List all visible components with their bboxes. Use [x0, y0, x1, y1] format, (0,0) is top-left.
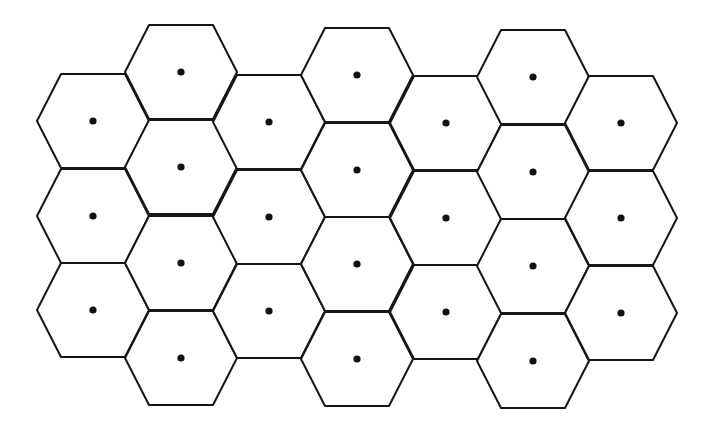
cell-center-dot-icon: [177, 163, 184, 170]
cell-center-dot-icon: [353, 71, 360, 78]
cell-center-dot-icon: [89, 306, 96, 313]
cell-center-dot-icon: [617, 119, 624, 126]
cell-center-dot-icon: [442, 308, 449, 315]
cell-center-dot-icon: [529, 73, 536, 80]
cell-center-dot-icon: [617, 214, 624, 221]
hex-cell: [301, 28, 413, 122]
cell-center-dot-icon: [353, 355, 360, 362]
cell-center-dot-icon: [529, 262, 536, 269]
hex-cell: [565, 171, 677, 265]
cell-center-dot-icon: [353, 166, 360, 173]
hex-cell: [125, 25, 237, 119]
cell-center-dot-icon: [529, 357, 536, 364]
cell-center-dot-icon: [265, 118, 272, 125]
cell-center-dot-icon: [89, 117, 96, 124]
hex-cell: [565, 266, 677, 360]
hexagonal-cell-grid: [0, 0, 713, 433]
cell-center-dot-icon: [265, 307, 272, 314]
cell-center-dot-icon: [265, 213, 272, 220]
cell-center-dot-icon: [177, 68, 184, 75]
cells-layer: [37, 25, 677, 408]
cell-center-dot-icon: [177, 354, 184, 361]
cell-center-dot-icon: [442, 214, 449, 221]
cell-center-dot-icon: [617, 309, 624, 316]
cell-center-dot-icon: [529, 168, 536, 175]
hex-cell: [565, 76, 677, 170]
cell-center-dot-icon: [89, 212, 96, 219]
cell-center-dot-icon: [177, 259, 184, 266]
cell-center-dot-icon: [442, 119, 449, 126]
cell-center-dot-icon: [353, 260, 360, 267]
